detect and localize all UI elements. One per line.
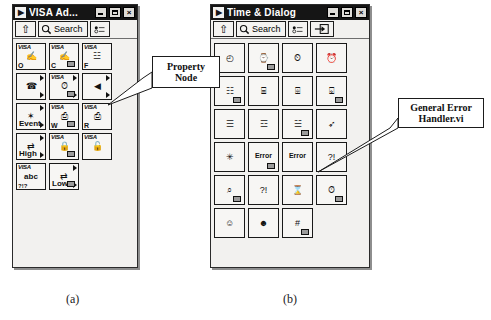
- icon-word-label: Low: [52, 179, 68, 188]
- search-button-label: Search: [54, 24, 83, 34]
- callout-general-error-handler: General Error Handler.vi: [398, 98, 484, 128]
- palette-icon-clear-errors[interactable]: ⌛: [282, 175, 313, 205]
- options-icon: [94, 24, 106, 35]
- submenu-arrow-icon: [73, 165, 77, 171]
- submenu-arrow-icon: [40, 75, 44, 81]
- palette-icon-visa-unlock[interactable]: VISA🔓: [82, 133, 112, 160]
- palette-icon-error-timeout[interactable]: ⏱: [316, 175, 347, 205]
- palette-icon-error-code-convert[interactable]: #: [282, 208, 313, 238]
- minimize-button[interactable]: [327, 7, 339, 18]
- palette-icon-wait-ms-multiple[interactable]: ⏲: [282, 43, 313, 73]
- icon-terminal-block: [67, 61, 75, 67]
- palette-icon-wait-for-front-panel[interactable]: ➶: [316, 109, 347, 139]
- submenu-arrow-icon: [40, 135, 44, 141]
- palette-icon-visa-find-resource[interactable]: VISA☳F: [82, 43, 112, 70]
- icon-grid-b[interactable]: ◴⌚⏲⏰☷⌸⌹⌺☰☲☱➶✳ErrorError?!⌕?!⌛⏱☺☻#: [214, 43, 366, 238]
- callout-geh-line2: Handler.vi: [410, 113, 472, 124]
- palette-icon-visa-string[interactable]: VISAabc?!?: [16, 163, 46, 190]
- palette-icon-to-date-time-rec[interactable]: ⌸: [248, 76, 279, 106]
- palette-icon-visa-read[interactable]: VISA⎙R: [82, 103, 112, 130]
- general-error-handler-icon-glyph: Error: [283, 142, 312, 171]
- palette-icon-high-level-sub[interactable]: ⇄High: [16, 133, 46, 160]
- icon-terminal-block: [267, 64, 275, 70]
- palette-icon-error-cluster-lookup[interactable]: ⌕: [214, 175, 245, 205]
- palette-icon-two-button-dialog[interactable]: ☲: [248, 109, 279, 139]
- palette-icon-one-button-dialog[interactable]: ☰: [214, 109, 245, 139]
- icon-terminal-block: [67, 121, 75, 127]
- window-b-controls[interactable]: ×: [327, 7, 367, 18]
- palette-icon-display-message[interactable]: ☻: [248, 208, 279, 238]
- palette-icon-get-date-time-string[interactable]: ⏰: [316, 43, 347, 73]
- palette-icon-wait-ms[interactable]: ⌚: [248, 43, 279, 73]
- palette-window-time-dialog[interactable]: ▶ Time & Dialog × ⇧ Search: [210, 4, 370, 268]
- up-arrow-icon: ⇧: [21, 23, 30, 36]
- palette-icon-low-level-sub[interactable]: ⇄Low: [49, 163, 79, 190]
- two-button-dialog-glyph: ☲: [249, 110, 278, 138]
- up-level-button[interactable]: ⇧: [213, 21, 234, 37]
- search-button[interactable]: Search: [236, 21, 286, 37]
- palette-icon-visa-serial-sub[interactable]: ☎: [16, 73, 46, 100]
- detach-icon: [314, 23, 330, 35]
- submenu-arrow-icon: [40, 122, 44, 128]
- palette-icon-visa-clock-sub[interactable]: VISA⏱: [49, 73, 79, 100]
- palette-icon-prompt-user-input[interactable]: ☺: [214, 208, 245, 238]
- palette-icon-visa-close[interactable]: VISA✍C: [49, 43, 79, 70]
- palette-icon-beep[interactable]: ✳: [214, 142, 245, 172]
- window-a-controls[interactable]: ×: [95, 7, 135, 18]
- palette-window-visa-advanced[interactable]: ▶ VISA Ad... × ⇧ Search: [12, 4, 138, 268]
- wait-ms-multiple-glyph: ⏲: [283, 44, 312, 72]
- display-message-glyph: ☻: [249, 209, 278, 237]
- palette-icon-property-node-icon[interactable]: ◀: [82, 73, 112, 100]
- palette-icon-visa-lock[interactable]: VISA🔒: [49, 133, 79, 160]
- maximize-button[interactable]: [109, 7, 121, 18]
- options-button[interactable]: [90, 21, 110, 37]
- visa-unlock-glyph: 🔓: [83, 134, 111, 159]
- callout-geh-line1: General Error: [410, 102, 472, 113]
- wait-for-front-panel-glyph: ➶: [317, 110, 346, 138]
- icon-grid-a[interactable]: VISA✍OVISA✍CVISA☳F☎VISA⏱◀✶EventVISA⎙WVIS…: [16, 43, 134, 190]
- close-button[interactable]: ×: [355, 7, 367, 18]
- figure-root: ▶ VISA Ad... × ⇧ Search: [0, 0, 491, 320]
- clear-errors-glyph: ⌛: [283, 176, 312, 204]
- palette-body-b: ◴⌚⏲⏰☷⌸⌹⌺☰☲☱➶✳ErrorError?!⌕?!⌛⏱☺☻#: [211, 39, 369, 242]
- toolbar-window-b[interactable]: ⇧ Search: [211, 20, 369, 39]
- palette-icon-visa-open[interactable]: VISA✍O: [16, 43, 46, 70]
- submenu-arrow-icon: [106, 92, 110, 98]
- titlebar-window-a[interactable]: ▶ VISA Ad... ×: [13, 5, 137, 20]
- icon-terminal-block: [67, 91, 75, 97]
- app-logo-icon: ▶: [213, 7, 224, 18]
- up-level-button[interactable]: ⇧: [15, 21, 36, 37]
- close-button[interactable]: ×: [123, 7, 135, 18]
- palette-icon-find-first-error[interactable]: ?!: [316, 142, 347, 172]
- detach-palette-button[interactable]: [310, 21, 334, 37]
- palette-icon-date-time-to-seconds[interactable]: ⌺: [316, 76, 347, 106]
- window-b-title: Time & Dialog: [227, 7, 327, 18]
- icon-sub-label: ?!?: [18, 183, 27, 189]
- icon-terminal-block: [301, 229, 309, 235]
- magnifier-icon: [41, 24, 52, 35]
- seconds-to-date-time-glyph: ⌹: [283, 77, 312, 105]
- icon-terminal-block: [67, 151, 75, 157]
- palette-icon-merge-errors[interactable]: ?!: [248, 175, 279, 205]
- minimize-button[interactable]: [95, 7, 107, 18]
- titlebar-window-b[interactable]: ▶ Time & Dialog ×: [211, 5, 369, 20]
- window-a-title: VISA Ad...: [29, 7, 95, 18]
- caption-b: (b): [283, 292, 297, 307]
- icon-terminal-block: [335, 97, 343, 103]
- palette-icon-event-sub[interactable]: ✶Event: [16, 103, 46, 130]
- toolbar-window-a[interactable]: ⇧ Search: [13, 20, 137, 39]
- options-button[interactable]: [288, 21, 308, 37]
- maximize-button[interactable]: [341, 7, 353, 18]
- palette-icon-simple-error-handler[interactable]: Error: [248, 142, 279, 172]
- search-button[interactable]: Search: [38, 21, 88, 37]
- find-first-error-glyph: ?!: [317, 143, 346, 171]
- palette-icon-three-button-dialog[interactable]: ☱: [282, 109, 313, 139]
- caption-a: (a): [66, 292, 79, 307]
- get-date-time-string-glyph: ⏰: [317, 44, 346, 72]
- callout-property-node: Property Node: [152, 56, 220, 88]
- palette-icon-seconds-to-date-time[interactable]: ⌹: [282, 76, 313, 106]
- icon-corner-label: F: [84, 62, 88, 69]
- icon-terminal-block: [335, 196, 343, 202]
- palette-icon-visa-write[interactable]: VISA⎙W: [49, 103, 79, 130]
- palette-icon-general-error-handler-icon[interactable]: Error: [282, 142, 313, 172]
